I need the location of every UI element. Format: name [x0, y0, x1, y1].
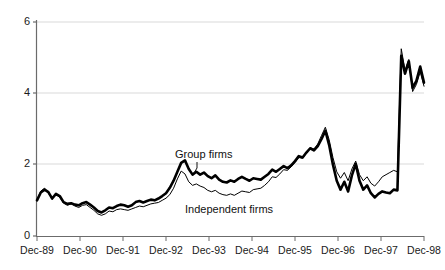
y-tick-label-4: 4 [14, 87, 30, 98]
series-lines [37, 49, 424, 216]
y-tick-label-6: 6 [14, 16, 30, 27]
series-line-group-firms [37, 56, 424, 213]
y-axis [33, 20, 37, 236]
x-axis [36, 236, 424, 241]
gridlines [37, 22, 424, 164]
x-tick-label-dec-98: Dec-98 [394, 245, 445, 256]
series-line-independent-firms [37, 49, 424, 216]
y-tick-label-2: 2 [14, 158, 30, 169]
y-tick-label-0: 0 [14, 230, 30, 241]
series-annotation-group-firms: Group firms [175, 148, 232, 160]
series-annotation-independent-firms: Independent firms [185, 203, 273, 215]
